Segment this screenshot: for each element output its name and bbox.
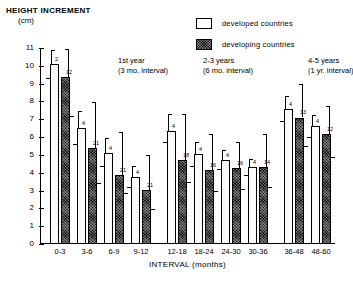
bar-developed <box>284 109 293 244</box>
bar-group: 421 <box>131 48 151 244</box>
range-whisker-developed <box>78 111 79 128</box>
group-annotation-line1: 2-3 years <box>203 56 234 65</box>
y-axis-tick <box>39 226 44 227</box>
legend-label-developed: developed countries <box>222 19 293 28</box>
y-axis-tick-label: 1 <box>30 222 34 230</box>
sample-size-label-developed: 4 <box>172 124 175 130</box>
range-low-tick-developing <box>70 116 74 117</box>
y-axis-tick-label: 6 <box>30 133 34 141</box>
y-axis-tick <box>39 119 44 120</box>
range-low-tick-developing <box>151 209 155 210</box>
sample-size-label-developed: 4 <box>109 146 112 152</box>
range-low-tick-developed <box>244 175 248 176</box>
range-low-tick-developed <box>100 166 104 167</box>
y-axis-tick <box>39 66 44 67</box>
range-low-tick-developed <box>127 187 131 188</box>
x-axis-tick-label: 6-9 <box>109 248 120 256</box>
sample-size-label-developed: 4 <box>136 170 139 176</box>
bar-developing <box>61 77 70 244</box>
range-whisker-developed <box>249 159 250 167</box>
bar-developed <box>77 128 86 244</box>
sample-size-label-developed: 4 <box>253 160 256 166</box>
y-axis-tick <box>39 155 44 156</box>
range-whisker-developed <box>132 166 133 178</box>
y-axis-tick <box>39 244 44 245</box>
bar-group: 412 <box>311 48 331 244</box>
bar-developed <box>221 160 230 244</box>
x-axis-tick-label: 18-24 <box>194 248 213 256</box>
range-whisker-developed <box>285 96 286 109</box>
sample-size-label-developing: 21 <box>120 168 126 174</box>
y-axis-tick <box>39 191 44 192</box>
range-low-tick-developed <box>46 78 50 79</box>
range-low-tick-developing <box>187 182 191 183</box>
bar-group: 421 <box>104 48 124 244</box>
group-annotation-line2: (6 mo. interval) <box>203 66 253 76</box>
bar-developing <box>88 148 97 244</box>
bar-group: 416 <box>221 48 241 244</box>
y-axis-title-text: HEIGHT INCREMENT <box>6 6 91 15</box>
x-axis-tick-label: 12-18 <box>167 248 186 256</box>
y-axis-tick-label: 4 <box>30 169 34 177</box>
group-annotation-line2: (1 yr. interval) <box>308 66 353 76</box>
sample-size-label-developing: 16 <box>210 163 216 169</box>
sample-size-label-developed: 4 <box>199 147 202 153</box>
sample-size-label-developing: 16 <box>237 161 243 167</box>
group-annotation-line1: 1st year <box>118 56 145 65</box>
bar-developed <box>50 64 59 244</box>
y-axis-tick-label: 2 <box>30 204 34 212</box>
x-axis-tick-label: 3-6 <box>82 248 93 256</box>
plot-area: 01234567891011 2124214214214184164164144… <box>40 48 335 244</box>
sample-size-label-developed: 4 <box>226 153 229 159</box>
bar-developing <box>142 190 151 244</box>
legend-swatch-developed-icon <box>196 18 212 29</box>
range-low-tick-developing <box>97 183 101 184</box>
range-whisker-developed <box>51 50 52 64</box>
bar-developed <box>104 153 113 244</box>
bar-developing <box>322 134 331 244</box>
bar-group: 416 <box>194 48 214 244</box>
y-axis-tick-label: 3 <box>30 187 34 195</box>
sample-size-label-developed: 4 <box>316 119 319 125</box>
sample-size-label-developing: 21 <box>93 141 99 147</box>
range-low-tick-developed <box>307 137 311 138</box>
y-axis-tick <box>39 173 44 174</box>
bar-group: 414 <box>248 48 268 244</box>
range-low-tick-developed <box>190 166 194 167</box>
sample-size-label-developing: 21 <box>147 183 153 189</box>
bar-developed <box>311 126 320 244</box>
group-annotation: 2-3 years(6 mo. interval) <box>203 56 253 75</box>
y-axis-tick-label: 11 <box>26 44 34 52</box>
x-axis-tick-label: 30-36 <box>248 248 267 256</box>
sample-size-label-developed: 2 <box>55 57 58 63</box>
sample-size-label-developing: 18 <box>183 153 189 159</box>
range-whisker-developed <box>168 114 169 131</box>
sample-size-label-developed: 4 <box>289 102 292 108</box>
group-annotation: 1st year(3 mo. interval) <box>118 56 168 75</box>
range-whisker-developed <box>222 150 223 161</box>
bar-developed <box>167 131 176 244</box>
range-low-tick-developing <box>124 193 128 194</box>
sample-size-label-developed: 4 <box>82 121 85 127</box>
x-axis-tick-label: 48-60 <box>311 248 330 256</box>
y-axis-tick-label: 10 <box>25 62 34 70</box>
y-axis-title: HEIGHT INCREMENT (cm) <box>6 6 91 25</box>
y-axis-tick <box>39 48 44 49</box>
bar-group: 212 <box>50 48 70 244</box>
range-low-tick-developed <box>73 144 77 145</box>
bar-developing <box>205 170 214 244</box>
bar-developed <box>248 167 257 244</box>
y-axis-line <box>40 48 41 244</box>
sample-size-label-developing: 12 <box>66 70 72 76</box>
bar-developing <box>232 168 241 244</box>
range-low-tick-developing <box>241 189 245 190</box>
legend-item-developed: developed countries <box>196 16 295 31</box>
x-axis-tick-label: 0-3 <box>55 248 66 256</box>
bar-group: 413 <box>284 48 304 244</box>
bar-developing <box>115 175 124 244</box>
bar-developing <box>259 167 268 244</box>
range-low-tick-developed <box>280 121 284 122</box>
bar-developed <box>131 177 140 244</box>
bar-group: 421 <box>77 48 97 244</box>
y-axis-tick <box>39 137 44 138</box>
